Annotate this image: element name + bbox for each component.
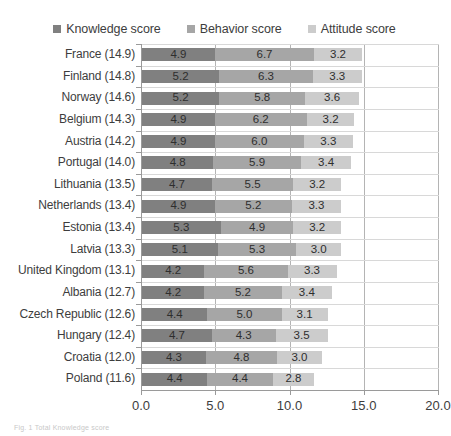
bar-segment-attitude[interactable]: 2.8 [273, 373, 315, 386]
bar-segment-attitude[interactable]: 3.2 [293, 178, 341, 191]
category-label: Croatia (12.0) [64, 347, 135, 368]
bar-row[interactable]: 4.95.23.3 [142, 200, 341, 213]
bar-value-label: 3.3 [320, 136, 336, 148]
bar-segment-attitude[interactable]: 3.4 [301, 156, 351, 169]
bar-row[interactable]: 4.25.63.3 [142, 265, 337, 278]
bar-segment-attitude[interactable]: 3.4 [282, 286, 332, 299]
bar-row[interactable]: 5.34.93.2 [142, 221, 341, 234]
bar-row[interactable]: 4.44.42.8 [142, 373, 314, 386]
bar-value-label: 4.7 [169, 330, 185, 342]
x-tick-label: 20.0 [425, 398, 450, 413]
bar-segment-knowledge[interactable]: 4.7 [142, 329, 212, 342]
category-tick [136, 109, 141, 110]
bar-segment-behavior[interactable]: 5.5 [212, 178, 294, 191]
bar-segment-attitude[interactable]: 3.2 [307, 113, 355, 126]
bar-value-label: 3.2 [323, 114, 339, 126]
bar-value-label: 4.2 [165, 265, 181, 277]
bar-segment-behavior[interactable]: 4.4 [207, 373, 272, 386]
row-separator [142, 260, 439, 261]
bar-row[interactable]: 4.45.03.1 [142, 308, 328, 321]
bar-segment-knowledge[interactable]: 5.3 [142, 221, 221, 234]
bar-segment-behavior[interactable]: 4.8 [206, 351, 277, 364]
bar-segment-behavior[interactable]: 5.8 [219, 92, 305, 105]
bar-value-label: 4.3 [236, 330, 252, 342]
stacked-bar-chart: France (14.9)Finland (14.8)Norway (14.6)… [0, 44, 449, 436]
bar-segment-behavior[interactable]: 5.0 [207, 308, 281, 321]
bar-segment-knowledge[interactable]: 4.8 [142, 156, 213, 169]
row-separator [142, 174, 439, 175]
bar-row[interactable]: 4.85.93.4 [142, 156, 351, 169]
bar-row[interactable]: 5.15.33.0 [142, 243, 341, 256]
legend-swatch-icon [308, 25, 316, 33]
bar-segment-behavior[interactable]: 5.2 [215, 200, 292, 213]
bar-segment-behavior[interactable]: 4.9 [221, 221, 294, 234]
legend-item-behavior: Behavior score [187, 22, 282, 36]
bar-segment-attitude[interactable]: 3.5 [276, 329, 328, 342]
bar-segment-attitude[interactable]: 3.1 [282, 308, 328, 321]
bar-segment-attitude[interactable]: 3.0 [277, 351, 322, 364]
bar-segment-attitude[interactable]: 3.3 [313, 70, 362, 83]
bar-row[interactable]: 4.25.23.4 [142, 286, 332, 299]
bar-segment-knowledge[interactable]: 5.2 [142, 70, 219, 83]
bar-value-label: 3.2 [330, 49, 346, 61]
bar-value-label: 3.5 [294, 330, 310, 342]
bar-segment-behavior[interactable]: 5.2 [204, 286, 281, 299]
bar-segment-knowledge[interactable]: 4.4 [142, 373, 207, 386]
bar-value-label: 3.1 [297, 309, 313, 321]
bar-row[interactable]: 5.25.83.6 [142, 92, 359, 105]
bar-value-label: 5.1 [172, 244, 188, 256]
bar-row[interactable]: 4.75.53.2 [142, 178, 341, 191]
bar-segment-behavior[interactable]: 5.3 [218, 243, 297, 256]
bar-value-label: 4.9 [249, 222, 265, 234]
bar-value-label: 4.9 [170, 114, 186, 126]
bar-segment-behavior[interactable]: 6.7 [215, 48, 314, 61]
bar-segment-knowledge[interactable]: 4.7 [142, 178, 212, 191]
bar-segment-attitude[interactable]: 3.2 [314, 48, 362, 61]
bar-segment-attitude[interactable]: 3.3 [304, 135, 353, 148]
bar-segment-knowledge[interactable]: 4.3 [142, 351, 206, 364]
x-tick-mark [215, 390, 216, 395]
bar-value-label: 4.8 [233, 352, 249, 364]
bar-segment-behavior[interactable]: 5.9 [213, 156, 301, 169]
bar-segment-attitude[interactable]: 3.2 [293, 221, 341, 234]
bar-segment-attitude[interactable]: 3.6 [305, 92, 358, 105]
bar-value-label: 4.9 [170, 200, 186, 212]
bar-row[interactable]: 4.96.23.2 [142, 113, 354, 126]
category-label: Hungary (12.4) [57, 325, 135, 346]
bar-value-label: 4.4 [167, 309, 183, 321]
bar-value-label: 3.4 [299, 287, 315, 299]
bar-value-label: 4.4 [167, 373, 183, 385]
bar-segment-knowledge[interactable]: 4.4 [142, 308, 207, 321]
bar-segment-knowledge[interactable]: 5.2 [142, 92, 219, 105]
bar-row[interactable]: 4.74.33.5 [142, 329, 328, 342]
category-tick [136, 131, 141, 132]
bar-value-label: 2.8 [285, 373, 301, 385]
bar-row[interactable]: 5.26.33.3 [142, 70, 362, 83]
bar-segment-attitude[interactable]: 3.0 [296, 243, 341, 256]
bar-segment-behavior[interactable]: 5.6 [204, 265, 287, 278]
bar-segment-behavior[interactable]: 6.0 [215, 135, 304, 148]
bar-segment-attitude[interactable]: 3.3 [292, 200, 341, 213]
bar-segment-behavior[interactable]: 4.3 [212, 329, 276, 342]
bar-segment-knowledge[interactable]: 5.1 [142, 243, 218, 256]
bar-segment-knowledge[interactable]: 4.2 [142, 286, 204, 299]
row-separator [142, 66, 439, 67]
bar-segment-attitude[interactable]: 3.3 [288, 265, 337, 278]
bar-segment-behavior[interactable]: 6.2 [215, 113, 307, 126]
bar-segment-behavior[interactable]: 6.3 [219, 70, 313, 83]
category-label: Portugal (14.0) [58, 152, 135, 173]
bar-segment-knowledge[interactable]: 4.9 [142, 135, 215, 148]
category-label: Austria (14.2) [65, 131, 135, 152]
bar-segment-knowledge[interactable]: 4.9 [142, 48, 215, 61]
bar-row[interactable]: 4.96.03.3 [142, 135, 353, 148]
row-separator [142, 109, 439, 110]
bar-value-label: 5.2 [245, 200, 261, 212]
bar-row[interactable]: 4.96.73.2 [142, 48, 362, 61]
bar-value-label: 6.7 [256, 49, 272, 61]
bar-value-label: 5.8 [254, 92, 270, 104]
bar-value-label: 4.9 [170, 49, 186, 61]
bar-segment-knowledge[interactable]: 4.9 [142, 200, 215, 213]
bar-segment-knowledge[interactable]: 4.9 [142, 113, 215, 126]
bar-segment-knowledge[interactable]: 4.2 [142, 265, 204, 278]
bar-row[interactable]: 4.34.83.0 [142, 351, 322, 364]
